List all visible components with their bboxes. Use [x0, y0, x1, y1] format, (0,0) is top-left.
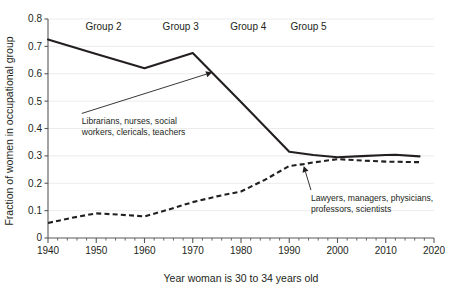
- y-tick-label: 0.8: [28, 13, 42, 24]
- x-tick-label: 1940: [37, 245, 60, 256]
- y-axis-tick-labels: 00.10.20.30.40.50.60.70.8: [28, 13, 42, 243]
- gridlines-group: [48, 19, 434, 211]
- y-tick-label: 0.5: [28, 96, 42, 107]
- annotation-arrowhead: [302, 166, 308, 173]
- x-tick-label: 2010: [375, 245, 398, 256]
- y-axis-title: Fraction of women in occupational group: [3, 36, 15, 225]
- y-tick-label: 0: [36, 232, 42, 243]
- x-tick-label: 2000: [326, 245, 349, 256]
- chart-container: 00.10.20.30.40.50.60.70.8 19401950196019…: [0, 0, 455, 287]
- y-tick-label: 0.4: [28, 123, 42, 134]
- group-label: Group 2: [85, 21, 122, 32]
- group-label: Group 4: [230, 21, 267, 32]
- x-axis-tick-labels: 194019501960197019801990200020102020: [37, 245, 446, 256]
- x-tick-label: 1980: [230, 245, 253, 256]
- y-tick-label: 0.3: [28, 150, 42, 161]
- annotations-group: Librarians, nurses, socialworkers, cleri…: [81, 71, 433, 214]
- annotation-leader-line: [305, 172, 311, 190]
- annotation-leader-line: [82, 74, 207, 113]
- x-tick-label: 1950: [85, 245, 108, 256]
- x-tick-label: 1970: [182, 245, 205, 256]
- group-label: Group 5: [290, 21, 327, 32]
- series-line-1: [48, 40, 420, 158]
- y-tick-label: 0.2: [28, 178, 42, 189]
- group-label: Group 3: [163, 21, 200, 32]
- y-tick-label: 0.1: [28, 205, 42, 216]
- y-tick-label: 0.7: [28, 41, 42, 52]
- group-labels: Group 2Group 3Group 4Group 5: [85, 21, 327, 32]
- x-tick-label: 2020: [423, 245, 446, 256]
- y-tick-label: 0.6: [28, 68, 42, 79]
- x-axis-title: Year woman is 30 to 34 years old: [164, 272, 319, 284]
- x-tick-label: 1990: [278, 245, 301, 256]
- line-chart: 00.10.20.30.40.50.60.70.8 19401950196019…: [0, 0, 455, 287]
- annotation-librarians: Librarians, nurses, socialworkers, cleri…: [81, 116, 186, 137]
- x-tick-label: 1960: [133, 245, 156, 256]
